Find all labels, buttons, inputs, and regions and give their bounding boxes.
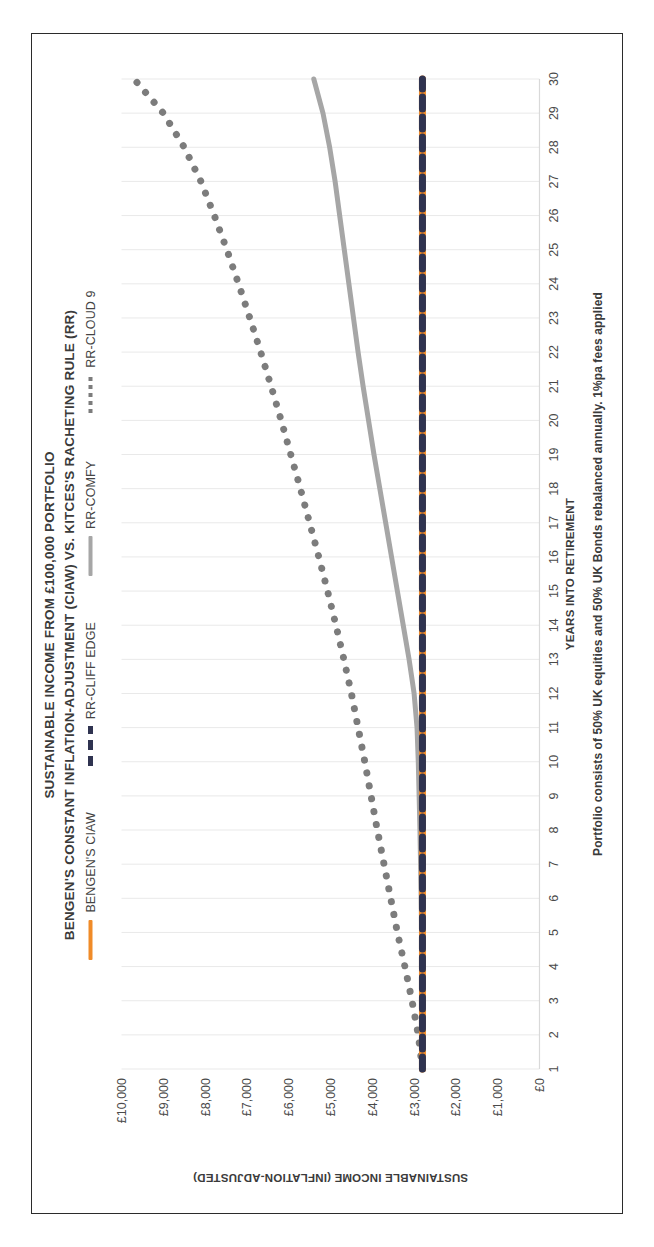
- page-canvas: SUSTAINABLE INCOME FROM £100,000 PORTFOL…: [0, 0, 654, 1247]
- y-axis-tick-label: £0: [533, 1078, 547, 1092]
- x-axis-tick-label: 2: [547, 1031, 561, 1038]
- x-axis-tick-label: 1: [547, 1065, 561, 1072]
- x-axis-tick-label: 30: [547, 72, 561, 86]
- legend-item-rr-comfy[interactable]: RR-COMFY: [84, 460, 98, 575]
- x-axis-tick-label: 16: [547, 549, 561, 563]
- y-axis-tick-label: £4,000: [365, 1078, 379, 1116]
- legend-item-rr-cloud-9[interactable]: RR-CLOUD 9: [84, 290, 98, 414]
- dashed-line-swatch-icon: [86, 726, 96, 766]
- y-axis-title-text: SUSTAINABLE INCOME (INFLATION-ADJUSTED): [193, 1172, 468, 1184]
- chart-footnote: Portfolio consists of 50% UK equities an…: [591, 79, 605, 1069]
- x-axis-tick-label: 29: [547, 106, 561, 120]
- rotation-wrapper: SUSTAINABLE INCOME FROM £100,000 PORTFOL…: [32, 34, 624, 1215]
- x-axis-tick-label: 6: [547, 894, 561, 901]
- chart-subtitle: BENGEN'S CONSTANT INFLATION-ADJUSTMENT (…: [60, 45, 80, 1205]
- x-axis-tick-label: 3: [547, 997, 561, 1004]
- legend-label: RR-CLOUD 9: [84, 290, 98, 367]
- legend-item-bengens-ciaw[interactable]: BENGEN'S CIAW: [84, 812, 98, 959]
- y-axis-tick-label: £10,000: [115, 1078, 129, 1123]
- y-axis-tick-label: £8,000: [198, 1078, 212, 1116]
- x-axis-tick-label: 20: [547, 413, 561, 427]
- x-axis-tick-label: 12: [547, 686, 561, 700]
- y-axis-tick-label: £7,000: [240, 1078, 254, 1116]
- plot-svg: [122, 79, 540, 1069]
- legend-label: RR-COMFY: [84, 460, 98, 528]
- x-axis-tick-label: 8: [547, 826, 561, 833]
- x-axis-tick-label: 14: [547, 618, 561, 632]
- x-axis-tick-label: 24: [547, 276, 561, 290]
- x-axis-tick-label: 10: [547, 754, 561, 768]
- y-axis-title: SUSTAINABLE INCOME (INFLATION-ADJUSTED): [122, 1169, 540, 1187]
- legend-item-rr-cliff-edge[interactable]: RR-CLIFF EDGE: [84, 621, 98, 765]
- dotted-line-swatch-icon: [86, 374, 96, 414]
- x-axis-tick-label: 22: [547, 345, 561, 359]
- y-axis-tick-label: £9,000: [156, 1078, 170, 1116]
- y-axis-tick-label: £1,000: [491, 1078, 505, 1116]
- y-axis-tick-label: £2,000: [449, 1078, 463, 1116]
- x-axis-title: YEARS INTO RETIREMENT: [564, 79, 576, 1069]
- x-axis-tick-label: 21: [547, 379, 561, 393]
- chart-border-frame: SUSTAINABLE INCOME FROM £100,000 PORTFOL…: [31, 33, 623, 1214]
- y-axis-tick-label: £3,000: [407, 1078, 421, 1116]
- x-axis-tick-label: 13: [547, 652, 561, 666]
- x-axis-tick-label: 9: [547, 792, 561, 799]
- x-axis-tick-label: 5: [547, 928, 561, 935]
- x-axis-tick-label: 17: [547, 515, 561, 529]
- chart-stage: SUSTAINABLE INCOME FROM £100,000 PORTFOL…: [36, 45, 621, 1205]
- x-axis-tick-label: 23: [547, 311, 561, 325]
- x-axis-tick-label: 25: [547, 242, 561, 256]
- plot-area: £10,000£9,000£8,000£7,000£6,000£5,000£4,…: [122, 79, 540, 1069]
- solid-line-swatch-icon: [86, 919, 96, 959]
- x-axis-tick-label: 18: [547, 481, 561, 495]
- chart-legend: BENGEN'S CIAW RR-CLIFF EDGE RR-COMFY RR-…: [84, 45, 98, 1205]
- legend-label: BENGEN'S CIAW: [84, 812, 98, 912]
- x-axis-tick-label: 15: [547, 584, 561, 598]
- solid-line-swatch-icon: [86, 535, 96, 575]
- x-axis-tick-label: 4: [547, 963, 561, 970]
- x-axis-tick-label: 26: [547, 208, 561, 222]
- chart-title-block: SUSTAINABLE INCOME FROM £100,000 PORTFOL…: [40, 45, 80, 1205]
- series-line-rr-comfy: [314, 79, 423, 1069]
- legend-label: RR-CLIFF EDGE: [84, 621, 98, 718]
- y-axis-tick-label: £6,000: [282, 1078, 296, 1116]
- chart-title: SUSTAINABLE INCOME FROM £100,000 PORTFOL…: [40, 45, 60, 1205]
- y-axis-tick-label: £5,000: [324, 1078, 338, 1116]
- x-axis-tick-label: 27: [547, 174, 561, 188]
- series-line-rr-cloud-9: [134, 79, 422, 1069]
- x-axis-tick-label: 7: [547, 860, 561, 867]
- x-axis-tick-label: 28: [547, 140, 561, 154]
- x-axis-tick-label: 11: [547, 721, 561, 734]
- x-axis-tick-label: 19: [547, 447, 561, 461]
